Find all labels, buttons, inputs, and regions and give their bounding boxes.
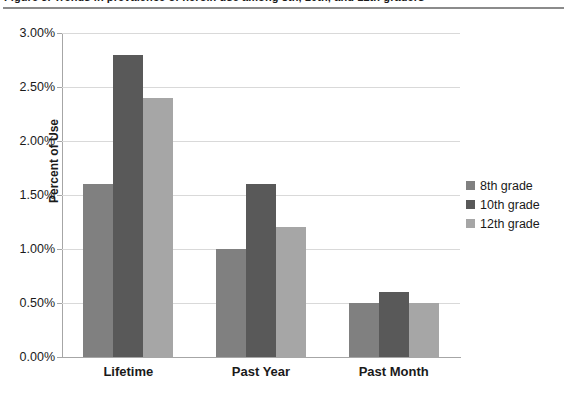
y-axis-tick-label: 1.00% xyxy=(3,242,55,256)
legend-item-label: 8th grade xyxy=(480,179,533,193)
bar xyxy=(349,303,379,357)
y-axis-tick-label: 2.50% xyxy=(3,80,55,94)
y-axis-tick xyxy=(57,357,62,358)
bar xyxy=(379,292,409,357)
figure-caption-strip: Figure 3. Trends in prevalence of heroin… xyxy=(0,0,567,7)
bar xyxy=(113,55,143,357)
x-axis-tick-label: Past Year xyxy=(195,364,328,379)
y-axis-tick xyxy=(57,87,62,88)
bar-chart: Percent of Use 0.00%0.50%1.00%1.50%2.00%… xyxy=(0,12,567,404)
bar xyxy=(246,184,276,357)
legend-item[interactable]: 8th grade xyxy=(466,176,566,195)
y-axis-tick-label: 3.00% xyxy=(3,26,55,40)
legend-swatch-icon xyxy=(466,181,475,190)
bar xyxy=(276,227,306,357)
figure: Figure 3. Trends in prevalence of heroin… xyxy=(0,0,567,404)
y-axis-tick-labels: 0.00%0.50%1.00%1.50%2.00%2.50%3.00% xyxy=(0,33,55,357)
plot-area xyxy=(62,33,460,357)
legend-item[interactable]: 10th grade xyxy=(466,195,566,214)
y-axis-tick xyxy=(57,249,62,250)
bar xyxy=(409,303,439,357)
bar xyxy=(143,98,173,357)
legend-item[interactable]: 12th grade xyxy=(466,214,566,233)
x-axis-tick-label: Lifetime xyxy=(62,364,195,379)
caption-divider xyxy=(3,7,564,9)
y-axis-tick xyxy=(57,303,62,304)
y-axis-tick-label: 0.00% xyxy=(3,350,55,364)
y-axis-tick-label: 0.50% xyxy=(3,296,55,310)
y-axis-tick xyxy=(57,33,62,34)
bar xyxy=(83,184,113,357)
legend-swatch-icon xyxy=(466,219,475,228)
figure-caption: Figure 3. Trends in prevalence of heroin… xyxy=(4,0,564,3)
y-axis-tick xyxy=(57,195,62,196)
legend-item-label: 12th grade xyxy=(480,217,540,231)
gridline xyxy=(62,33,460,34)
x-axis-tick-label: Past Month xyxy=(327,364,460,379)
x-axis-line xyxy=(62,357,461,358)
legend-item-label: 10th grade xyxy=(480,198,540,212)
y-axis-tick xyxy=(57,141,62,142)
legend: 8th grade10th grade12th grade xyxy=(466,176,566,233)
bar xyxy=(216,249,246,357)
y-axis-tick-label: 1.50% xyxy=(3,188,55,202)
legend-swatch-icon xyxy=(466,200,475,209)
y-axis-tick-label: 2.00% xyxy=(3,134,55,148)
